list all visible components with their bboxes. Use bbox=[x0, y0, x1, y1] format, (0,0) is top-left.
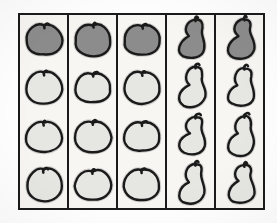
apple-icon bbox=[119, 113, 165, 159]
pear-icon bbox=[217, 64, 263, 110]
fruit-column bbox=[20, 15, 69, 208]
fruit-cell bbox=[167, 112, 214, 160]
apple-icon bbox=[70, 161, 116, 207]
pear-icon bbox=[217, 16, 263, 62]
fruit-column bbox=[167, 15, 216, 208]
fruit-cell bbox=[20, 15, 67, 63]
pear-icon bbox=[168, 113, 214, 159]
fruit-cell bbox=[216, 112, 263, 160]
fruit-cell bbox=[118, 160, 165, 208]
fruit-cell bbox=[20, 63, 67, 111]
fruit-cell bbox=[69, 160, 116, 208]
apple-icon bbox=[21, 64, 67, 110]
pear-icon bbox=[168, 64, 214, 110]
fruit-column bbox=[118, 15, 167, 208]
apple-icon bbox=[21, 113, 67, 159]
fruit-cell bbox=[216, 15, 263, 63]
fruit-cell bbox=[167, 63, 214, 111]
fruit-cell bbox=[20, 112, 67, 160]
figure-canvas bbox=[0, 0, 277, 223]
fruit-cell bbox=[118, 63, 165, 111]
fruit-cell bbox=[69, 112, 116, 160]
fruit-grid bbox=[18, 13, 265, 210]
fruit-cell bbox=[167, 15, 214, 63]
pear-icon bbox=[217, 113, 263, 159]
fruit-column bbox=[216, 15, 263, 208]
fruit-cell bbox=[118, 15, 165, 63]
fruit-cell bbox=[118, 112, 165, 160]
pear-icon bbox=[217, 161, 263, 207]
fruit-cell bbox=[20, 160, 67, 208]
apple-icon bbox=[119, 16, 165, 62]
fruit-cell bbox=[167, 160, 214, 208]
apple-icon bbox=[70, 16, 116, 62]
fruit-cell bbox=[216, 160, 263, 208]
apple-icon bbox=[70, 64, 116, 110]
apple-icon bbox=[21, 16, 67, 62]
fruit-cell bbox=[69, 15, 116, 63]
pear-icon bbox=[168, 16, 214, 62]
apple-icon bbox=[119, 161, 165, 207]
fruit-column bbox=[69, 15, 118, 208]
fruit-cell bbox=[216, 63, 263, 111]
apple-icon bbox=[21, 161, 67, 207]
apple-icon bbox=[70, 113, 116, 159]
apple-icon bbox=[119, 64, 165, 110]
pear-icon bbox=[168, 161, 214, 207]
fruit-cell bbox=[69, 63, 116, 111]
